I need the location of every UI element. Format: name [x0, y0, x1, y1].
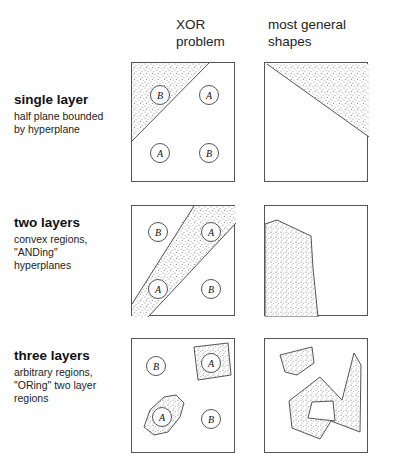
class-label-b-topleft: B [149, 223, 168, 242]
class-label-text: B [155, 227, 161, 238]
row-subtitle-two-layers: convex regions, "ANDing" hyperplanes [14, 233, 126, 272]
diagram-box-single-layer-general [264, 62, 368, 182]
two-layers-xor-svg: B A A B [132, 206, 236, 317]
class-label-b-topleft: B [151, 86, 170, 105]
class-label-text: B [153, 361, 159, 372]
class-label-text: B [208, 414, 214, 425]
row-title-two-layers: two layers [14, 215, 126, 231]
class-label-text: B [208, 284, 214, 295]
class-label-b-bottomright: B [202, 280, 221, 299]
class-label-text: A [207, 358, 215, 369]
diagram-box-three-layers-xor: B A A B [131, 338, 235, 453]
class-label-a-bottomleft: A [151, 144, 170, 163]
diagram-box-two-layers-general [264, 205, 368, 316]
class-label-a-bottomleft: A [153, 408, 172, 427]
diagram-box-three-layers-general [264, 338, 368, 453]
diagram-box-two-layers-xor: B A A B [131, 205, 235, 316]
class-label-b-bottomright: B [202, 410, 221, 429]
row-label-three-layers: three layers arbitrary regions, "ORing" … [14, 348, 126, 405]
single-layer-xor-svg: B A A B [132, 63, 236, 183]
row-title-three-layers: three layers [14, 348, 126, 364]
class-label-text: A [207, 227, 215, 238]
class-label-text: B [206, 148, 212, 159]
class-label-b-topleft: B [147, 357, 166, 376]
arbitrary-region-small [280, 347, 314, 375]
class-label-text: A [156, 148, 164, 159]
row-title-single-layer: single layer [14, 92, 126, 108]
three-layers-xor-svg: B A A B [132, 339, 236, 454]
class-label-a-topright: A [202, 354, 221, 373]
class-label-text: A [158, 412, 166, 423]
class-label-a-topright: A [202, 223, 221, 242]
diagram-box-single-layer-xor: B A A B [131, 62, 235, 182]
class-label-text: B [157, 90, 163, 101]
row-subtitle-three-layers: arbitrary regions, "ORing" two layer reg… [14, 366, 126, 405]
row-subtitle-single-layer: half plane bounded by hyperplane [14, 110, 126, 136]
row-label-two-layers: two layers convex regions, "ANDing" hype… [14, 215, 126, 272]
class-label-b-bottomright: B [200, 144, 219, 163]
class-label-text: A [154, 284, 162, 295]
convex-region-shaded [265, 220, 318, 317]
three-layers-general-svg [265, 339, 369, 454]
column-header-xor-problem: XOR problem [176, 16, 225, 50]
class-label-text: A [205, 90, 213, 101]
class-label-a-topright: A [200, 86, 219, 105]
column-header-most-general-shapes: most general shapes [268, 16, 346, 50]
two-layers-general-svg [265, 206, 369, 317]
class-label-a-bottomleft: A [149, 280, 168, 299]
single-layer-general-svg [265, 63, 369, 183]
row-label-single-layer: single layer half plane bounded by hyper… [14, 92, 126, 136]
